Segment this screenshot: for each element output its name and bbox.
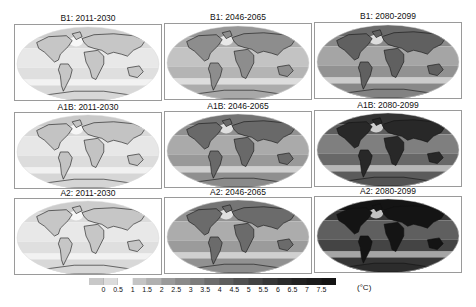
globe	[165, 24, 311, 99]
map-panel-b1-2080	[314, 22, 462, 99]
ocean-band	[15, 80, 161, 86]
map-svg	[315, 23, 461, 98]
colorbar-tick-label: 6.5	[288, 286, 298, 294]
colorbar-tick-label: 1.5	[142, 286, 152, 294]
map-panel-a2-2011	[14, 198, 162, 275]
colorbar-segment	[147, 278, 162, 285]
globe	[165, 112, 311, 187]
colorbar-segment	[191, 278, 206, 285]
colorbar-tick-label: 3.5	[200, 286, 210, 294]
colorbar-tick-label: 3	[189, 286, 193, 294]
colorbar-segment	[307, 278, 322, 285]
map-panel-b1-2011	[14, 24, 162, 101]
ocean-band	[315, 78, 461, 84]
colorbar-tick-label: 4.5	[229, 286, 239, 294]
colorbar-tick-label: 7	[305, 286, 309, 294]
colorbar-tick-label: 1	[131, 286, 135, 294]
colorbar-segment	[89, 278, 104, 285]
colorbar-tick-label: 0.5	[113, 286, 123, 294]
map-panel-b1-2046	[164, 23, 312, 100]
panel-title-b1-2046: B1: 2046-2065	[164, 13, 312, 22]
ocean-band	[315, 166, 461, 172]
colorbar-ticks: 00.511.522.533.544.555.566.577.5	[89, 286, 336, 295]
panel-title-b1-2080: B1: 2080-2099	[314, 12, 462, 21]
ocean-band	[15, 254, 161, 260]
colorbar-tick-label: 6	[276, 286, 280, 294]
colorbar-unit: (°C)	[357, 283, 371, 292]
colorbar-segment	[104, 278, 119, 285]
map-panel-a1b-2011	[14, 112, 162, 189]
globe	[315, 111, 461, 186]
colorbar-segment	[176, 278, 191, 285]
panel-title-a1b-2011: A1B: 2011-2030	[14, 103, 162, 112]
colorbar-segment	[118, 278, 133, 285]
map-svg	[165, 24, 311, 99]
panel-title-a1b-2046: A1B: 2046-2065	[164, 102, 312, 111]
map-panel-a2-2080	[314, 196, 462, 273]
colorbar	[89, 278, 336, 285]
colorbar-tick-label: 0	[102, 286, 106, 294]
panel-title-a1b-2080: A1B: 2080-2099	[314, 101, 462, 110]
colorbar-segment	[263, 278, 278, 285]
colorbar-tick-label: 2	[160, 286, 164, 294]
globe	[315, 23, 461, 98]
map-svg	[165, 198, 311, 273]
panel-title-a2-2011: A2: 2011-2030	[14, 189, 162, 198]
colorbar-tick-label: 2.5	[171, 286, 181, 294]
panel-title-a2-2080: A2: 2080-2099	[314, 187, 462, 196]
colorbar-tick-label: 7.5	[317, 286, 327, 294]
globe	[15, 199, 161, 274]
ocean-band	[165, 253, 311, 259]
map-panel-a2-2046	[164, 197, 312, 274]
ocean-band	[15, 168, 161, 174]
map-svg	[315, 197, 461, 272]
colorbar-segment	[292, 278, 307, 285]
colorbar-segment	[220, 278, 235, 285]
map-panel-a1b-2080	[314, 110, 462, 187]
colorbar-tick-label: 5.5	[258, 286, 268, 294]
panel-title-b1-2011: B1: 2011-2030	[14, 14, 162, 23]
map-svg	[165, 112, 311, 187]
colorbar-segment	[205, 278, 220, 285]
colorbar-segment	[278, 278, 293, 285]
colorbar-segment	[249, 278, 264, 285]
colorbar-tick-label: 4	[218, 286, 222, 294]
map-panel-a1b-2046	[164, 111, 312, 188]
colorbar-tick-label: 5	[247, 286, 251, 294]
colorbar-segment	[322, 278, 337, 285]
colorbar-segment	[133, 278, 148, 285]
ocean-band	[165, 79, 311, 85]
ocean-band	[165, 167, 311, 173]
ocean-band	[315, 252, 461, 258]
map-svg	[15, 199, 161, 274]
globe	[15, 25, 161, 100]
map-svg	[15, 113, 161, 188]
globe	[15, 113, 161, 188]
globe	[165, 198, 311, 273]
panel-title-a2-2046: A2: 2046-2065	[164, 188, 312, 197]
map-svg	[315, 111, 461, 186]
colorbar-segment	[162, 278, 177, 285]
globe	[315, 197, 461, 272]
map-svg	[15, 25, 161, 100]
colorbar-segment	[234, 278, 249, 285]
